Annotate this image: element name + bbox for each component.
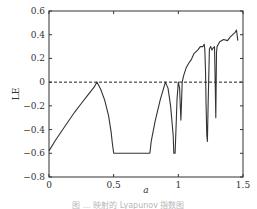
lyapunov-exponent-line [49, 30, 238, 153]
x-tick-label: 1 [175, 180, 181, 190]
y-tick-label: 0.4 [31, 30, 46, 40]
y-tick-label: −0.4 [23, 125, 45, 135]
x-tick-label: 1.5 [236, 180, 251, 190]
figure-caption: 图 ... 映射的 Lyapunov 指数图 [0, 199, 257, 209]
y-tick-label: −0.6 [23, 148, 45, 158]
y-tick-label: −0.2 [23, 101, 45, 111]
x-tick-label: 0.5 [107, 180, 122, 190]
x-axis-label: a [143, 185, 148, 195]
chart-svg: 0.60.40.20−0.2−0.4−0.6−0.800.511.5aLE [0, 0, 257, 209]
y-axis-label: LE [11, 88, 21, 101]
plot-frame [49, 11, 243, 177]
y-tick-label: −0.8 [23, 172, 45, 182]
y-tick-label: 0.6 [31, 6, 46, 16]
x-tick-label: 0 [46, 180, 52, 190]
y-tick-label: 0.2 [31, 53, 45, 63]
y-tick-label: 0 [39, 77, 45, 87]
